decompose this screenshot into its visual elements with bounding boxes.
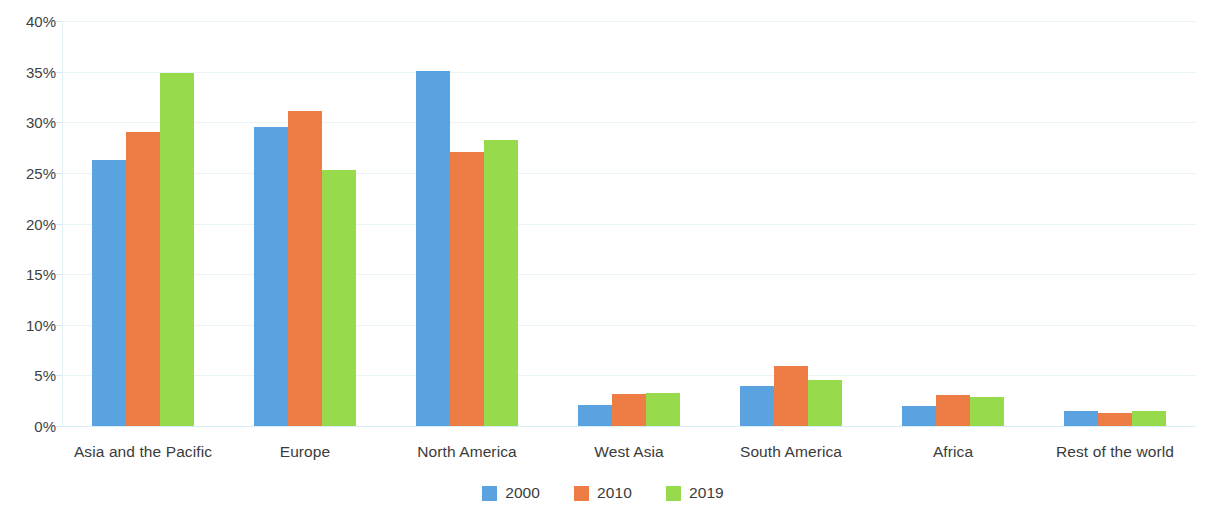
bar-2000: [92, 160, 126, 426]
bar-2010: [612, 394, 646, 426]
legend-item-2000[interactable]: 2000: [482, 484, 540, 502]
plot-area: [62, 21, 1196, 426]
legend-label: 2019: [689, 484, 724, 502]
x-axis-tick-label: West Asia: [594, 443, 664, 461]
legend-swatch-icon: [666, 486, 681, 501]
gridline: [62, 426, 1196, 427]
y-axis-tick-label: 0%: [0, 418, 56, 435]
bar-2010: [774, 366, 808, 426]
bar-2019: [160, 73, 194, 426]
bar-2010: [936, 395, 970, 426]
bar-group: [416, 21, 518, 426]
bar-group: [740, 21, 842, 426]
x-axis-labels: Asia and the PacificEuropeNorth AmericaW…: [62, 443, 1196, 469]
bar-2000: [1064, 411, 1098, 426]
y-axis-tick-label: 15%: [0, 266, 56, 283]
x-axis-tick-label: South America: [740, 443, 842, 461]
x-axis-tick-label: Asia and the Pacific: [74, 443, 212, 461]
y-axis-tick-label: 5%: [0, 367, 56, 384]
bar-group: [254, 21, 356, 426]
bar-2019: [322, 170, 356, 426]
bar-2000: [416, 71, 450, 426]
x-axis-tick-label: Europe: [280, 443, 331, 461]
y-axis-tick-label: 10%: [0, 316, 56, 333]
bar-2000: [902, 406, 936, 426]
x-axis-tick-label: Africa: [933, 443, 973, 461]
y-axis-tick-label: 25%: [0, 164, 56, 181]
bar-group: [92, 21, 194, 426]
bar-2019: [970, 397, 1004, 426]
x-axis-tick-label: Rest of the world: [1056, 443, 1174, 461]
y-axis-tick-label: 30%: [0, 114, 56, 131]
bar-2010: [288, 111, 322, 426]
bar-2019: [1132, 411, 1166, 426]
bar-2019: [808, 380, 842, 426]
bar-2019: [484, 140, 518, 426]
bar-2000: [740, 386, 774, 427]
bar-group: [578, 21, 680, 426]
bar-2010: [126, 132, 160, 426]
bar-2010: [1098, 413, 1132, 426]
bar-2000: [254, 127, 288, 426]
chart-legend: 200020102019: [0, 484, 1206, 502]
bar-group: [1064, 21, 1166, 426]
legend-label: 2010: [597, 484, 632, 502]
y-axis-tick-label: 40%: [0, 13, 56, 30]
legend-item-2010[interactable]: 2010: [574, 484, 632, 502]
bar-2019: [646, 393, 680, 426]
legend-swatch-icon: [574, 486, 589, 501]
bar-chart: 0%5%10%15%20%25%30%35%40% Asia and the P…: [0, 0, 1206, 515]
legend-item-2019[interactable]: 2019: [666, 484, 724, 502]
x-axis-tick-label: North America: [417, 443, 517, 461]
legend-label: 2000: [505, 484, 540, 502]
bar-2000: [578, 405, 612, 426]
y-axis-tick-label: 35%: [0, 63, 56, 80]
bar-group: [902, 21, 1004, 426]
bar-2010: [450, 152, 484, 426]
legend-swatch-icon: [482, 486, 497, 501]
y-axis-tick-label: 20%: [0, 215, 56, 232]
